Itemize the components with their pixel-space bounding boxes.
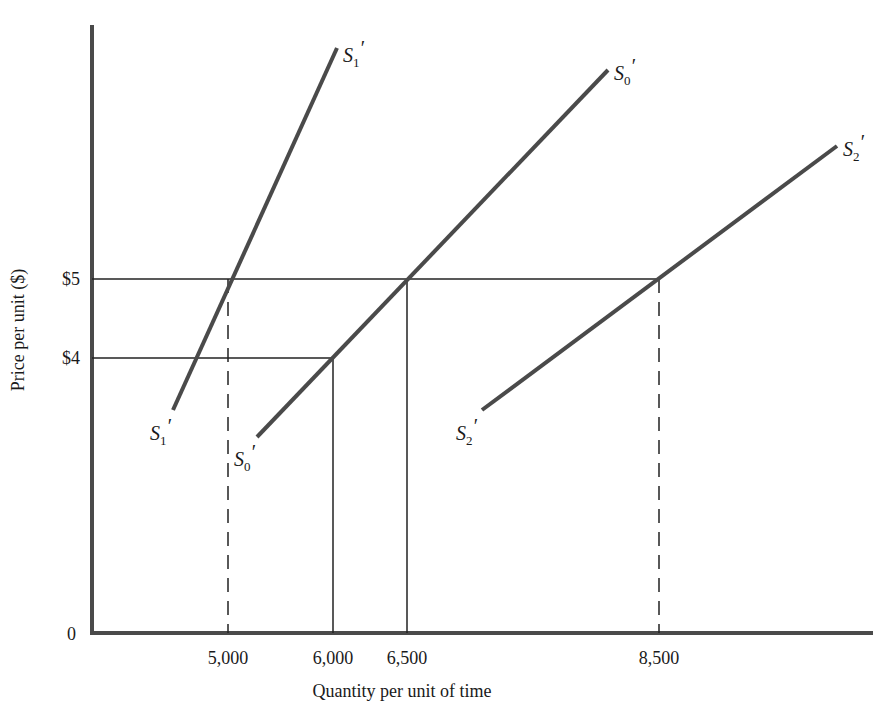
origin-label: 0 [67, 624, 76, 644]
x-axis-title: Quantity per unit of time [313, 681, 492, 701]
x-tick-6000: 6,000 [313, 648, 354, 668]
x-tick-5000: 5,000 [208, 648, 249, 668]
y-tick-5: $5 [62, 269, 80, 289]
supply-curve-s0 [257, 70, 608, 437]
x-tick-6500: 6,500 [387, 648, 428, 668]
x-tick-8500: 8,500 [639, 648, 680, 668]
y-tick-4: $4 [62, 348, 80, 368]
s2-top-label: S2′ [843, 131, 865, 164]
supply-curve-s1 [173, 48, 337, 410]
s2-bottom-label: S2′ [456, 415, 478, 448]
supply-curve-s2 [482, 146, 837, 410]
supply-chart: S1′ S1′ S0′ S0′ S2′ S2′ $5 $4 0 5,000 6,… [0, 0, 876, 706]
s1-bottom-label: S1′ [150, 415, 172, 448]
y-axis-title: Price per unit ($) [8, 269, 29, 391]
s1-top-label: S1′ [343, 37, 365, 70]
s0-bottom-label: S0′ [234, 441, 256, 474]
s0-top-label: S0′ [614, 55, 636, 88]
